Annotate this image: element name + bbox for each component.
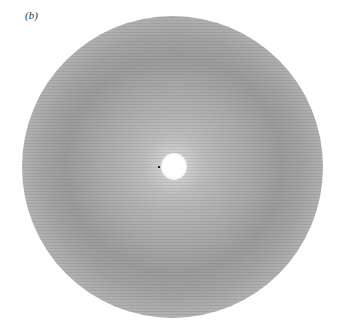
central-beam-spot	[161, 153, 187, 180]
beam-stop-dot	[158, 166, 160, 168]
